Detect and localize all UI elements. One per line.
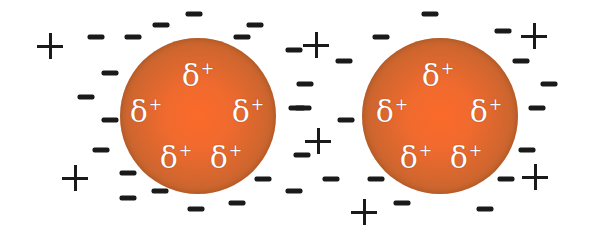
negative-ion-icon <box>93 148 110 153</box>
plus-superscript: + <box>489 95 502 114</box>
delta-symbol: δ <box>400 140 418 175</box>
delta-symbol: δ <box>470 94 488 129</box>
negative-ion-icon <box>295 106 312 111</box>
negative-ion-icon <box>88 35 105 40</box>
partial-charge-label: δ+ <box>232 97 264 127</box>
plus-superscript: + <box>201 59 214 78</box>
partial-charge-label: δ+ <box>400 143 432 173</box>
partial-charge-label: δ+ <box>130 97 162 127</box>
plus-superscript: + <box>149 95 162 114</box>
positive-ion-icon <box>37 33 63 59</box>
negative-ion-icon <box>498 177 515 182</box>
negative-ion-icon <box>394 201 411 206</box>
plus-superscript: + <box>469 141 482 160</box>
positive-ion-icon <box>305 128 331 154</box>
negative-ion-icon <box>495 29 512 34</box>
negative-ion-icon <box>513 59 530 64</box>
partial-charge-label: δ+ <box>210 143 242 173</box>
negative-ion-icon <box>286 48 303 53</box>
plus-superscript: + <box>251 95 264 114</box>
positive-ion-icon <box>351 199 377 225</box>
negative-ion-icon <box>234 35 251 40</box>
negative-ion-icon <box>297 82 314 87</box>
positive-ion-icon <box>62 165 88 191</box>
negative-ion-icon <box>541 82 558 87</box>
negative-ion-icon <box>120 196 137 201</box>
negative-ion-icon <box>336 59 353 64</box>
negative-ion-icon <box>519 148 536 153</box>
plus-superscript: + <box>441 59 454 78</box>
delta-symbol: δ <box>160 140 178 175</box>
delta-symbol: δ <box>210 140 228 175</box>
partial-charge-label: δ+ <box>450 143 482 173</box>
negative-ion-icon <box>229 201 246 206</box>
plus-superscript: + <box>229 141 242 160</box>
positive-ion-icon <box>522 164 548 190</box>
negative-ion-icon <box>373 35 390 40</box>
negative-ion-icon <box>422 12 439 17</box>
negative-ion-icon <box>247 23 264 28</box>
negative-ion-icon <box>188 207 205 212</box>
delta-symbol: δ <box>130 94 148 129</box>
partial-charge-label: δ+ <box>160 143 192 173</box>
double-layer-diagram: δ+δ+δ+δ+δ+δ+δ+δ+δ+δ+ <box>0 0 592 235</box>
negative-ion-icon <box>102 118 119 123</box>
negative-ion-icon <box>286 189 303 194</box>
negative-ion-icon <box>125 35 142 40</box>
delta-symbol: δ <box>450 140 468 175</box>
plus-superscript: + <box>419 141 432 160</box>
positive-ion-icon <box>303 32 329 58</box>
partial-charge-label: δ+ <box>182 61 214 91</box>
delta-symbol: δ <box>182 58 200 93</box>
negative-ion-icon <box>78 95 95 100</box>
partial-charge-label: δ+ <box>422 61 454 91</box>
partial-charge-label: δ+ <box>376 97 408 127</box>
negative-ion-icon <box>338 118 355 123</box>
negative-ion-icon <box>323 177 340 182</box>
negative-ion-icon <box>153 23 170 28</box>
negative-ion-icon <box>186 12 203 17</box>
delta-symbol: δ <box>422 58 440 93</box>
plus-superscript: + <box>179 141 192 160</box>
positive-ion-icon <box>521 23 547 49</box>
negative-ion-icon <box>368 177 385 182</box>
negative-ion-icon <box>120 171 137 176</box>
negative-ion-icon <box>255 177 272 182</box>
plus-superscript: + <box>395 95 408 114</box>
negative-ion-icon <box>529 106 546 111</box>
negative-ion-icon <box>152 189 169 194</box>
delta-symbol: δ <box>232 94 250 129</box>
negative-ion-icon <box>477 207 494 212</box>
delta-symbol: δ <box>376 94 394 129</box>
negative-ion-icon <box>102 71 119 76</box>
partial-charge-label: δ+ <box>470 97 502 127</box>
